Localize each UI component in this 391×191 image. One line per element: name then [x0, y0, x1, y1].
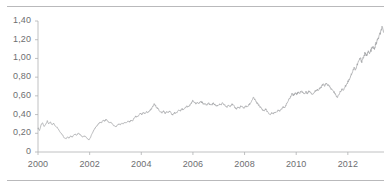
x-axis-tick-label: 2002 [70, 160, 110, 169]
y-axis-tick-label: 0,80 [5, 72, 31, 81]
y-axis-tick-label: 1,40 [5, 16, 31, 25]
y-axis-tick-label: 1,00 [5, 53, 31, 62]
y-axis-tick-label: 0,20 [5, 128, 31, 137]
x-axis-ticks [38, 152, 348, 155]
y-axis-tick-label: 0,60 [5, 91, 31, 100]
data-series-line [38, 26, 383, 140]
y-axis-tick-label: 0,40 [5, 110, 31, 119]
x-axis-tick-label: 2004 [121, 160, 161, 169]
y-axis-tick-label: 1,20 [5, 35, 31, 44]
y-axis-tick-label: 0 [5, 147, 31, 156]
x-axis-tick-label: 2010 [276, 160, 316, 169]
x-axis-tick-label: 2000 [18, 160, 58, 169]
y-axis-ticks [35, 21, 38, 152]
axes-group [35, 21, 384, 155]
x-axis-tick-label: 2006 [173, 160, 213, 169]
chart-figure: 1,401,201,000,800,600,400,200 2000200220… [0, 0, 391, 191]
x-axis-tick-label: 2012 [328, 160, 368, 169]
x-axis-tick-label: 2008 [225, 160, 265, 169]
